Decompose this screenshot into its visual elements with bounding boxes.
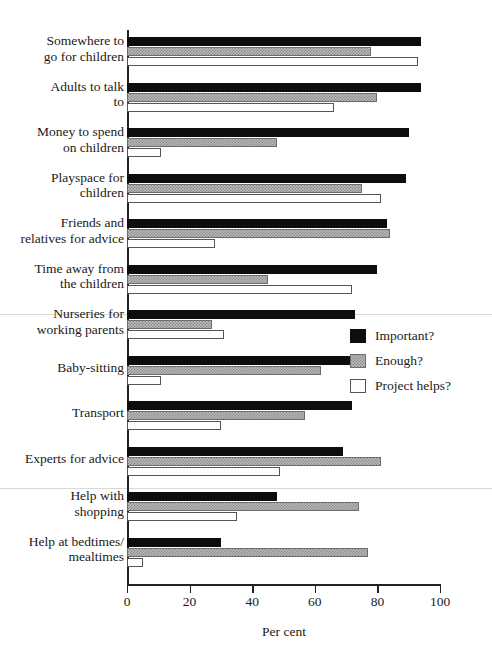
category-label: Playspace forchildren — [0, 170, 124, 201]
legend-swatch-project-helps-icon — [350, 379, 366, 393]
legend-item-project-helps: Project helps? — [350, 375, 451, 397]
bar-enough — [127, 411, 305, 420]
bar-helps — [127, 512, 237, 521]
bar-important — [127, 538, 221, 547]
legend-label-important: Important? — [375, 328, 434, 344]
category-label: Experts for advice — [0, 451, 124, 467]
x-axis-title: Per cent — [127, 624, 441, 640]
category-label: Transport — [0, 405, 124, 421]
x-axis-tick — [315, 586, 316, 593]
category-label-line: Baby-sitting — [0, 360, 124, 376]
bar-important — [127, 492, 277, 501]
category-label-line: to — [0, 94, 124, 110]
legend-item-enough: Enough? — [350, 350, 451, 372]
category-label: Baby-sitting — [0, 360, 124, 376]
x-axis-tick — [377, 586, 378, 593]
x-axis-tick-label: 40 — [245, 594, 259, 610]
bar-enough — [127, 502, 359, 511]
category-label-line: Nurseries for — [0, 306, 124, 322]
category-label-line: Adults to talk — [0, 79, 124, 95]
legend-swatch-important-icon — [350, 329, 366, 343]
category-label-line: go for children — [0, 49, 124, 65]
category-label-line: Playspace for — [0, 170, 124, 186]
bar-enough — [127, 275, 268, 284]
bar-important — [127, 447, 343, 456]
bar-chart: Somewhere togo for childrenAdults to tal… — [0, 0, 492, 662]
x-axis-line — [127, 584, 441, 586]
bar-helps — [127, 285, 352, 294]
legend-label-project-helps: Project helps? — [375, 378, 451, 394]
bar-enough — [127, 184, 362, 193]
bar-enough — [127, 457, 381, 466]
x-axis-tick — [127, 586, 128, 593]
category-label-line: Money to spend — [0, 124, 124, 140]
bar-helps — [127, 376, 161, 385]
bar-enough — [127, 138, 277, 147]
category-label-line: on children — [0, 140, 124, 156]
category-label: Nurseries forworking parents — [0, 306, 124, 337]
x-axis-tick — [440, 586, 441, 593]
category-label-line: working parents — [0, 322, 124, 338]
category-label-line: relatives for advice — [0, 231, 124, 247]
bar-helps — [127, 239, 215, 248]
bar-important — [127, 174, 406, 183]
x-axis-tick-label: 60 — [308, 594, 322, 610]
category-label: Help at bedtimes/mealtimes — [0, 534, 124, 565]
legend-item-important: Important? — [350, 325, 451, 347]
bar-helps — [127, 57, 418, 66]
x-axis-tick — [190, 586, 191, 593]
bar-helps — [127, 330, 224, 339]
bar-important — [127, 310, 355, 319]
x-axis-tick-label: 100 — [430, 594, 450, 610]
category-label-line: Experts for advice — [0, 451, 124, 467]
bar-important — [127, 37, 421, 46]
legend-swatch-enough-icon — [350, 354, 366, 368]
category-label: Help withshopping — [0, 488, 124, 519]
bar-important — [127, 401, 352, 410]
x-axis-tick-label: 20 — [183, 594, 197, 610]
category-label-line: the children — [0, 276, 124, 292]
x-axis-tick-label: 80 — [371, 594, 385, 610]
category-label-line: Help with — [0, 488, 124, 504]
category-label: Money to spendon children — [0, 124, 124, 155]
bar-enough — [127, 47, 371, 56]
bar-enough — [127, 366, 321, 375]
bar-helps — [127, 421, 221, 430]
bar-helps — [127, 148, 161, 157]
bar-helps — [127, 558, 143, 567]
bar-enough — [127, 548, 368, 557]
bar-important — [127, 83, 421, 92]
category-label: Friends andrelatives for advice — [0, 215, 124, 246]
bar-important — [127, 219, 387, 228]
category-label: Somewhere togo for children — [0, 33, 124, 64]
bar-important — [127, 356, 352, 365]
category-label-line: Help at bedtimes/ — [0, 534, 124, 550]
bar-important — [127, 265, 377, 274]
bar-enough — [127, 320, 212, 329]
x-axis-tick-label: 0 — [124, 594, 131, 610]
category-label-line: Somewhere to — [0, 33, 124, 49]
legend-label-enough: Enough? — [375, 353, 423, 369]
x-axis-tick — [252, 586, 253, 593]
category-label: Adults to talkto — [0, 79, 124, 110]
category-label-line: shopping — [0, 504, 124, 520]
category-label-line: children — [0, 185, 124, 201]
bar-helps — [127, 103, 334, 112]
category-label-line: Friends and — [0, 215, 124, 231]
bar-enough — [127, 93, 377, 102]
category-label-line: mealtimes — [0, 549, 124, 565]
category-label-line: Transport — [0, 405, 124, 421]
bar-helps — [127, 467, 280, 476]
category-label-line: Time away from — [0, 261, 124, 277]
bar-enough — [127, 229, 390, 238]
category-label: Time away fromthe children — [0, 261, 124, 292]
bar-helps — [127, 194, 381, 203]
chart-legend: Important? Enough? Project helps? — [350, 325, 451, 400]
bar-important — [127, 128, 409, 137]
